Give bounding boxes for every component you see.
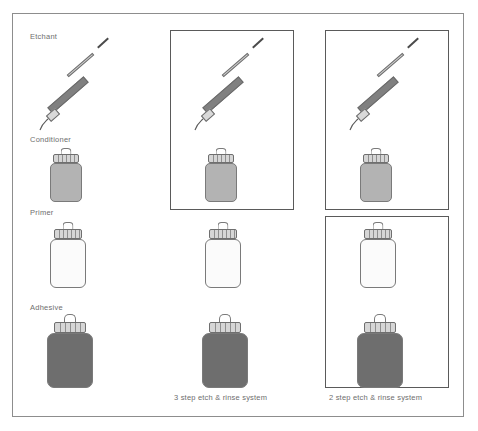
primer-bottle-col1 [43, 222, 93, 290]
etchant-syringe-col3 [346, 38, 422, 130]
syringe-needle-icon [191, 38, 267, 130]
conditioner-bottle-col2 [198, 148, 244, 204]
row-label-primer: Primer [30, 208, 54, 217]
caption-column-2: 3 step etch & rinse system [174, 393, 267, 402]
adhesive-bottle-col2 [195, 314, 255, 390]
conditioner-bottle-col1 [43, 148, 89, 204]
etchant-syringe-col1 [36, 38, 112, 130]
adhesive-bottle-col1 [40, 314, 100, 390]
row-label-conditioner: Conditioner [30, 135, 71, 144]
caption-column-3: 2 step etch & rinse system [329, 393, 422, 402]
etchant-syringe-col2 [191, 38, 267, 130]
primer-bottle-col3 [353, 222, 403, 290]
adhesive-bottle-col3 [350, 314, 410, 390]
syringe-needle-icon [36, 38, 112, 130]
diagram-canvas: Etchant Conditioner Primer Adhesive 3 st… [0, 0, 478, 431]
row-label-adhesive: Adhesive [30, 303, 63, 312]
conditioner-bottle-col3 [353, 148, 399, 204]
syringe-needle-icon [346, 38, 422, 130]
primer-bottle-col2 [198, 222, 248, 290]
